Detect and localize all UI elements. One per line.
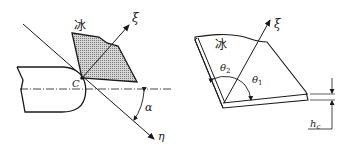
right-figure: 冰 ξ θ2 θ1 hc: [195, 17, 335, 131]
xi-label-left: ξ: [132, 11, 140, 25]
point-c-marker: [80, 76, 84, 80]
xi-label-right: ξ: [274, 17, 282, 31]
ice-label-left: 冰: [74, 19, 86, 33]
alpha-angle-arc: [134, 91, 144, 120]
left-figure: 冰 ξ C α η: [17, 11, 172, 143]
ice-accretion-diagram: 冰 ξ C α η 冰 ξ θ2 θ1 hc: [0, 0, 346, 151]
ice-label-right: 冰: [215, 38, 227, 52]
alpha-label: α: [145, 101, 153, 114]
eta-label: η: [158, 130, 165, 143]
point-c-label: C: [72, 78, 80, 89]
ice-shape: [72, 33, 137, 82]
airfoil-leading-edge: [17, 67, 86, 112]
